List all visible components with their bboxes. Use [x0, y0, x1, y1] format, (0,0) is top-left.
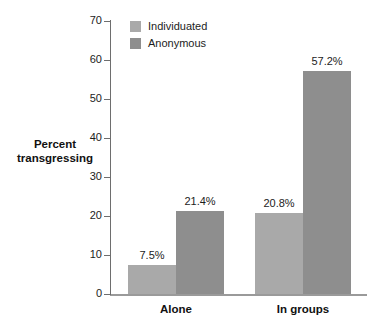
y-axis-tick-label: 10 — [78, 249, 102, 260]
bar-value-label: 21.4% — [164, 196, 236, 207]
bar-anonymous-in-groups — [303, 71, 351, 294]
bar-value-label: 57.2% — [291, 56, 363, 67]
y-axis-tick — [104, 21, 111, 22]
category-label-in-groups: In groups — [235, 303, 371, 315]
y-axis-tick-label: 30 — [78, 171, 102, 182]
y-axis-tick-label: 60 — [78, 54, 102, 65]
y-axis-tick — [104, 99, 111, 100]
y-axis-tick — [104, 138, 111, 139]
y-axis-tick — [104, 294, 111, 295]
bar-individuated-in-groups — [255, 213, 303, 294]
y-axis-tick — [104, 255, 111, 256]
legend-label: Individuated — [148, 21, 207, 32]
y-axis-tick-label: 20 — [78, 210, 102, 221]
bar-anonymous-alone — [176, 211, 224, 294]
bar-individuated-alone — [128, 265, 176, 294]
category-label-alone: Alone — [108, 303, 244, 315]
legend: IndividuatedAnonymous — [130, 19, 207, 53]
y-axis-tick-label: 40 — [78, 132, 102, 143]
y-axis-tick-label: 0 — [78, 288, 102, 299]
bar-chart: Percent transgressing 010203040506070 7.… — [0, 0, 383, 326]
y-axis-title-line-2: transgressing — [6, 151, 104, 165]
x-axis-line — [110, 294, 367, 296]
y-axis-tick-label: 70 — [78, 15, 102, 26]
y-axis-tick — [104, 177, 111, 178]
y-axis-tick-label: 50 — [78, 93, 102, 104]
legend-item-individuated: Individuated — [130, 19, 207, 34]
legend-swatch-icon — [130, 38, 141, 49]
y-axis-tick — [104, 216, 111, 217]
legend-label: Anonymous — [148, 38, 206, 49]
legend-swatch-icon — [130, 21, 141, 32]
y-axis-line — [110, 20, 111, 295]
y-axis-tick — [104, 60, 111, 61]
legend-item-anonymous: Anonymous — [130, 36, 207, 51]
